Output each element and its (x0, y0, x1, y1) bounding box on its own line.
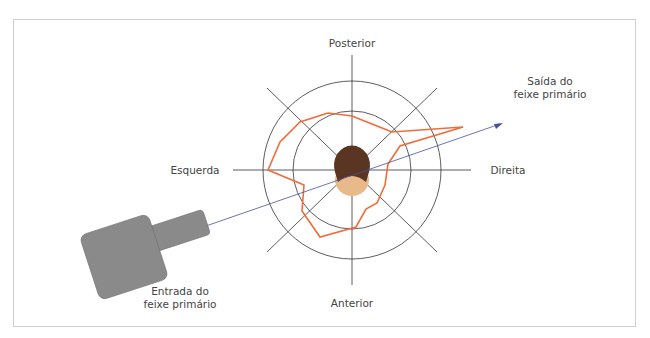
label-anterior: Anterior (312, 297, 392, 310)
beam-exit-line1: Saída do (500, 75, 600, 88)
beam-entry-line1: Entrada do (130, 285, 230, 298)
beam-entry-line2: feixe primário (130, 298, 230, 311)
scatter-diagram (0, 0, 650, 338)
label-posterior: Posterior (312, 37, 392, 50)
label-beam-exit: Saída do feixe primário (500, 75, 600, 101)
label-left: Esquerda (160, 164, 230, 177)
label-beam-entry: Entrada do feixe primário (130, 285, 230, 311)
beam-arrow-icon (494, 123, 503, 129)
beam-exit-line2: feixe primário (500, 88, 600, 101)
beam-line (180, 124, 500, 235)
label-right: Direita (478, 164, 538, 177)
